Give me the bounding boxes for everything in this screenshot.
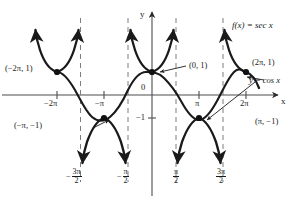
asymptote-den-2: 2 — [123, 176, 129, 185]
asymptote-num-1: 3π — [72, 168, 82, 176]
asymptote-label-pi-over-2: π2 — [172, 168, 179, 185]
tick-label-2pi: 2π — [240, 98, 249, 108]
secant-branch-left-outer — [57, 30, 79, 72]
secant-branch-pi-right — [199, 118, 221, 163]
asymptote-label-minus-3pi-over-2: −3π2 — [66, 168, 82, 185]
point-0-1 — [149, 69, 155, 75]
point-minus-pi-minus-1 — [101, 115, 107, 121]
tick-label-pi: π — [195, 98, 199, 108]
asymptote-num-4: 3π — [216, 168, 226, 176]
asymptote-num-2: π — [123, 168, 129, 176]
tick-label-minus-one: −1 — [136, 112, 145, 122]
point-pi-minus-1 — [196, 115, 202, 121]
secant-branch-far-left — [36, 30, 58, 72]
secant-branch-center-left — [131, 30, 153, 72]
asymptote-num-3: π — [173, 168, 179, 176]
point-minus-2pi-1 — [54, 69, 60, 75]
tick-label-origin: 0 — [141, 82, 145, 92]
asymptote-den-4: 2 — [216, 176, 226, 185]
secant-branch-center-right — [152, 30, 174, 72]
tick-label-minus-2pi: −2π — [44, 98, 57, 108]
point-label-minus-2pi-1: (−2π, 1) — [5, 63, 33, 73]
secant-branch-minuspi-left — [83, 118, 105, 163]
secant-function-label: f(x) = sec x — [232, 20, 273, 30]
secant-branch-minuspi-right — [104, 118, 126, 163]
tick-label-minus-pi: −π — [95, 98, 104, 108]
axis-label-y: y — [140, 9, 145, 19]
cosine-function-label: y = cos x — [249, 75, 280, 85]
point-label-0-1: (0, 1) — [189, 60, 207, 70]
leader-0-1 — [160, 66, 186, 72]
asymptote-den-1: 2 — [72, 176, 82, 185]
secant-branch-right-inner — [225, 30, 247, 72]
asymptote-label-minus-pi-over-2: −π2 — [117, 168, 129, 185]
asymptote-den-3: 2 — [173, 176, 179, 185]
secant-branch-pi-left — [178, 118, 200, 163]
point-label-2pi-1: (2π, 1) — [252, 57, 275, 67]
asymptote-label-3pi-over-2: 3π2 — [215, 168, 226, 185]
secant-curve — [36, 30, 260, 163]
point-label-minus-pi-minus-1: (−π, −1) — [14, 120, 42, 130]
axis-label-x: x — [281, 96, 286, 106]
point-label-pi-minus-1: (π, −1) — [255, 116, 278, 126]
